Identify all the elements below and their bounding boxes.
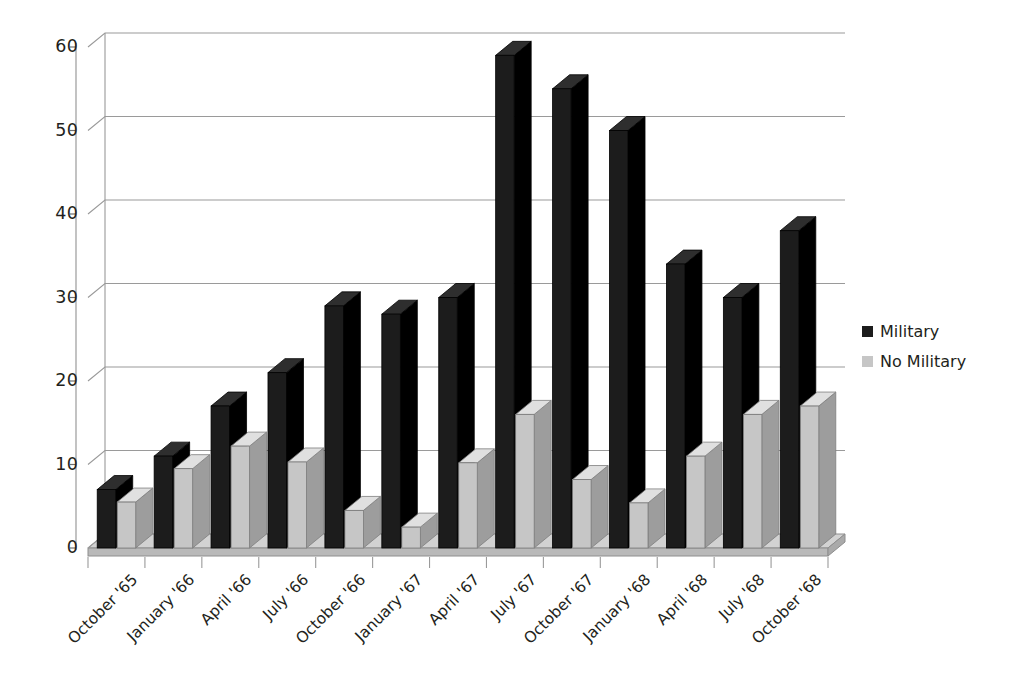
legend-label: Military xyxy=(880,322,939,341)
legend-label: No Military xyxy=(880,352,966,371)
bar-chart: 6050403020100 October '65January '66Apri… xyxy=(0,0,1012,688)
legend-item: Military xyxy=(862,316,1012,346)
x-axis-category-label: October '65 xyxy=(0,572,141,688)
legend-swatch-icon xyxy=(862,326,873,337)
legend-swatch-icon xyxy=(862,356,873,367)
x-axis-category-labels: October '65January '66April '66July '66O… xyxy=(0,0,1012,688)
chart-legend: MilitaryNo Military xyxy=(862,316,1012,376)
legend-item: No Military xyxy=(862,346,1012,376)
